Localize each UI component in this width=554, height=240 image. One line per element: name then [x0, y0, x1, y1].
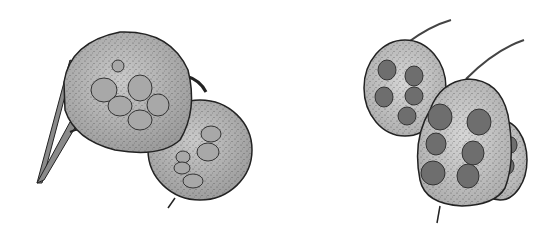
left-pod-front	[64, 32, 192, 153]
seed-pods-illustration	[0, 0, 554, 240]
left-pod-group	[37, 32, 252, 208]
right-pod-group	[364, 20, 527, 223]
illustration-canvas	[0, 0, 554, 240]
